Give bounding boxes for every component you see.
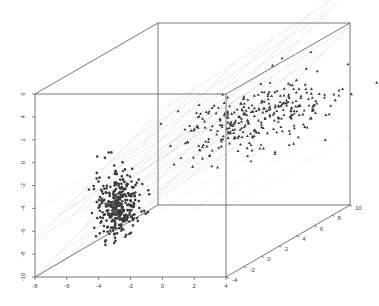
svg-text:4: 4 — [302, 236, 306, 242]
3d-scatter-plot: -10-8-6-4-20246-8-6-4-2024-4-20246810 — [0, 0, 379, 306]
svg-text:10: 10 — [355, 205, 362, 211]
svg-text:6: 6 — [20, 92, 26, 96]
svg-text:2: 2 — [20, 137, 26, 141]
svg-text:-4: -4 — [20, 205, 26, 211]
svg-text:-8: -8 — [20, 251, 26, 257]
axis-ticks: -10-8-6-4-20246-8-6-4-2024-4-20246810 — [20, 92, 363, 289]
svg-text:-2: -2 — [128, 283, 134, 289]
svg-text:8: 8 — [337, 215, 341, 221]
svg-text:-8: -8 — [32, 283, 38, 289]
svg-text:0: 0 — [267, 256, 271, 262]
svg-text:6: 6 — [320, 226, 324, 232]
svg-text:-10: -10 — [20, 272, 26, 281]
svg-text:-6: -6 — [20, 228, 26, 234]
svg-text:-6: -6 — [64, 283, 70, 289]
svg-text:4: 4 — [20, 115, 26, 119]
svg-text:0: 0 — [161, 283, 165, 289]
svg-text:4: 4 — [224, 283, 228, 289]
svg-text:-2: -2 — [250, 267, 256, 273]
svg-text:-4: -4 — [232, 277, 238, 283]
svg-text:0: 0 — [20, 160, 26, 164]
svg-text:-4: -4 — [96, 283, 102, 289]
svg-text:-2: -2 — [20, 182, 26, 188]
svg-text:2: 2 — [285, 246, 289, 252]
svg-text:2: 2 — [192, 283, 196, 289]
